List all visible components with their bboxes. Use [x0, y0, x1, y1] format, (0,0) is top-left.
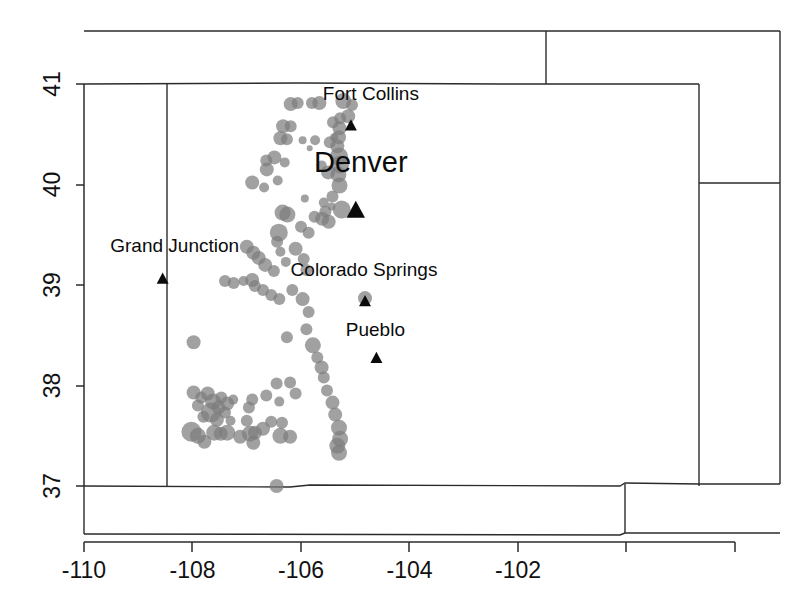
- earthquake-point: [310, 135, 320, 145]
- x-tick-label: -106: [278, 557, 324, 583]
- earthquake-point: [326, 396, 340, 410]
- earthquake-point: [270, 479, 284, 493]
- earthquake-point: [322, 215, 336, 229]
- earthquake-point: [300, 323, 312, 335]
- y-tick-label: 41: [39, 71, 65, 97]
- x-tick-label: -110: [62, 557, 106, 583]
- x-tick-label: -102: [495, 557, 541, 583]
- earthquake-point: [318, 372, 330, 384]
- earthquake-point: [260, 162, 274, 176]
- earthquake-point: [286, 284, 298, 296]
- city-label: Fort Collins: [323, 83, 419, 104]
- city-triangle-marker: [370, 352, 382, 363]
- earthquake-point: [260, 390, 272, 402]
- earthquake-point: [281, 331, 293, 343]
- city-label: Colorado Springs: [291, 259, 438, 280]
- earthquake-point: [219, 425, 235, 441]
- city-label: Pueblo: [346, 319, 405, 340]
- earthquake-point: [271, 236, 283, 248]
- earthquake-point: [290, 388, 302, 400]
- x-tick-label: -104: [386, 557, 432, 583]
- earthquake-point: [292, 97, 304, 109]
- earthquake-point: [321, 385, 333, 397]
- earthquake-point: [268, 265, 280, 277]
- earthquake-point: [274, 397, 284, 407]
- earthquake-point: [271, 378, 283, 390]
- earthquake-point: [281, 133, 293, 145]
- earthquake-point: [301, 195, 309, 203]
- earthquake-point: [281, 257, 291, 267]
- earthquake-point: [187, 335, 201, 349]
- earthquake-point: [259, 183, 269, 193]
- y-tick-label: 40: [39, 172, 65, 198]
- earthquake-point: [331, 445, 347, 461]
- earthquake-point: [228, 395, 238, 405]
- earthquake-point: [245, 176, 259, 190]
- earthquake-point: [303, 227, 315, 239]
- city-label: Denver: [314, 146, 408, 178]
- earthquake-point: [275, 247, 285, 257]
- plot-canvas: Fort CollinsDenverColorado SpringsPueblo…: [0, 0, 807, 605]
- y-tick-label: 39: [39, 272, 65, 298]
- city-label: Grand Junction: [110, 235, 239, 256]
- earthquake-point: [246, 436, 260, 450]
- earthquake-point: [273, 176, 283, 186]
- x-tick-labels: -110-108-106-104-102: [62, 557, 541, 583]
- earthquake-point: [285, 120, 297, 132]
- earthquake-point: [280, 157, 290, 167]
- x-tick-label: -108: [169, 557, 215, 583]
- earthquake-point: [279, 207, 295, 223]
- earthquake-point: [296, 292, 310, 306]
- earthquake-point: [299, 136, 307, 144]
- earthquake-point: [197, 411, 209, 423]
- earthquake-point: [283, 430, 297, 444]
- y-tick-label: 37: [39, 473, 65, 499]
- x-axis-ticks: [84, 542, 735, 552]
- scatter-map-figure: Fort CollinsDenverColorado SpringsPueblo…: [0, 0, 807, 605]
- earthquake-point: [241, 415, 253, 427]
- earthquake-point: [273, 293, 285, 305]
- earthquake-point: [328, 408, 342, 422]
- y-tick-labels: 3738394041: [39, 71, 65, 499]
- earthquake-point: [305, 337, 321, 353]
- earthquake-point: [228, 277, 240, 289]
- state-boundaries: [84, 31, 780, 535]
- earthquake-point: [276, 417, 288, 429]
- earthquake-point: [226, 416, 236, 426]
- earthquake-point: [243, 402, 255, 414]
- earthquake-point: [307, 145, 313, 151]
- city-markers-layer: Fort CollinsDenverColorado SpringsPueblo…: [110, 83, 437, 363]
- earthquake-point: [303, 306, 315, 318]
- y-tick-label: 38: [39, 373, 65, 399]
- earthquake-point: [289, 242, 303, 256]
- earthquake-point: [284, 377, 296, 389]
- earthquake-point: [197, 435, 211, 449]
- y-axis-ticks: [76, 84, 84, 486]
